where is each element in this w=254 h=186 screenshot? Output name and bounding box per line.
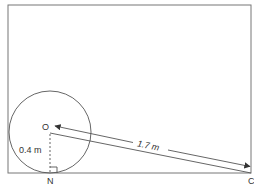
line-o-to-c [50, 133, 251, 173]
label-foot-n: N [47, 176, 54, 186]
label-corner-c: C [248, 176, 254, 186]
room-rectangle [8, 5, 251, 173]
label-radius: 0.4 m [19, 145, 42, 155]
diagram-canvas: O 0.4 m N C 1.7 m [0, 0, 254, 186]
circle [9, 91, 91, 173]
right-angle-marker [50, 167, 57, 173]
label-center-o: O [42, 122, 49, 132]
distance-arrow-left [55, 126, 133, 143]
distance-arrow-right [168, 150, 250, 167]
